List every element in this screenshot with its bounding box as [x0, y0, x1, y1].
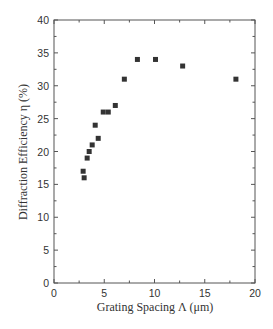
y-tick-label: 35: [37, 47, 49, 59]
y-tick-label: 25: [37, 113, 49, 125]
y-tick-label: 15: [37, 178, 49, 190]
data-point: [85, 156, 90, 161]
data-point: [153, 57, 158, 62]
data-point: [93, 123, 98, 128]
y-tick-label: 10: [37, 211, 49, 223]
x-tick-label: 20: [249, 287, 261, 299]
data-point: [233, 77, 238, 82]
y-tick-label: 20: [37, 146, 49, 158]
y-tick-label: 5: [43, 244, 49, 256]
data-point: [81, 169, 86, 174]
x-tick-label: 15: [199, 287, 211, 299]
data-point: [90, 142, 95, 147]
scatter-chart: 051015200510152025303540 Grating Spacing…: [0, 0, 273, 329]
data-point: [106, 110, 111, 115]
data-point: [113, 103, 118, 108]
x-axis-title: Grating Spacing Λ (μm): [97, 300, 213, 314]
y-tick-label: 30: [37, 80, 49, 92]
x-tick-label: 5: [101, 287, 107, 299]
data-point: [135, 57, 140, 62]
data-point: [122, 77, 127, 82]
data-points: [81, 57, 239, 180]
data-point: [82, 175, 87, 180]
y-axis-title: Diffraction Efficiency η (%): [16, 84, 30, 220]
data-point: [87, 149, 92, 154]
data-point: [101, 110, 106, 115]
x-tick-label: 0: [51, 287, 57, 299]
data-point: [180, 64, 185, 69]
data-point: [96, 136, 101, 141]
plot-axes: 051015200510152025303540: [37, 14, 261, 299]
x-tick-label: 10: [149, 287, 161, 299]
y-tick-label: 40: [37, 14, 49, 26]
y-tick-label: 0: [43, 277, 49, 289]
